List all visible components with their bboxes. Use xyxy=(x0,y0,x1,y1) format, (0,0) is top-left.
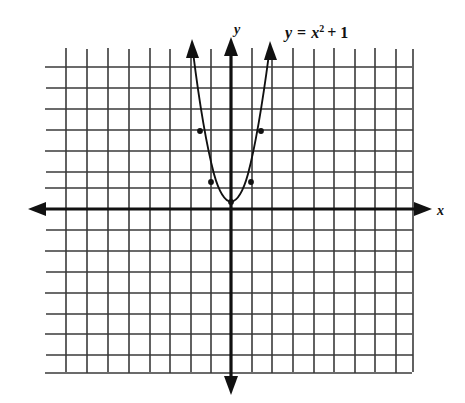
coordinate-plane-svg: y x y=x2+ 1 xyxy=(0,0,465,403)
y-axis-label: y xyxy=(232,22,241,37)
data-point xyxy=(248,179,254,185)
data-point xyxy=(208,179,214,185)
x-axis-label: x xyxy=(436,203,444,218)
graph-figure: y x y=x2+ 1 xyxy=(0,0,465,403)
equation-equals-sign: = xyxy=(297,24,306,41)
equation-x-term: x xyxy=(310,24,319,41)
data-point xyxy=(258,128,264,134)
data-point xyxy=(197,128,203,134)
equation-constant-term: + 1 xyxy=(327,24,348,41)
equation-exponent: 2 xyxy=(319,23,324,34)
equation-y-term: y xyxy=(283,24,293,42)
vertex-point xyxy=(228,199,234,205)
